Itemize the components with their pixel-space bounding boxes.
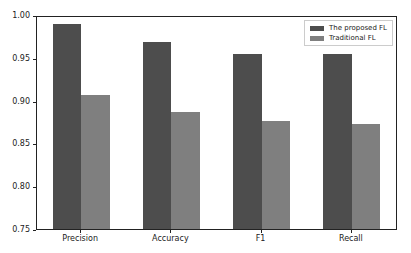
bar-recall-proposed (323, 54, 352, 229)
legend-item-traditional: Traditional FL (310, 33, 387, 43)
bar-f1-traditional (262, 121, 291, 229)
plot-area (36, 16, 397, 230)
bar-accuracy-proposed (143, 42, 172, 229)
legend-label: The proposed FL (329, 24, 387, 32)
legend-label: Traditional FL (329, 34, 376, 42)
bar-recall-traditional (352, 124, 381, 229)
legend: The proposed FL Traditional FL (304, 20, 393, 46)
bar-precision-traditional (81, 95, 110, 229)
bar-accuracy-traditional (171, 112, 200, 229)
legend-swatch (310, 26, 324, 31)
legend-swatch (310, 36, 324, 41)
legend-item-proposed: The proposed FL (310, 23, 387, 33)
bar-precision-proposed (53, 24, 82, 229)
bar-f1-proposed (233, 54, 262, 229)
